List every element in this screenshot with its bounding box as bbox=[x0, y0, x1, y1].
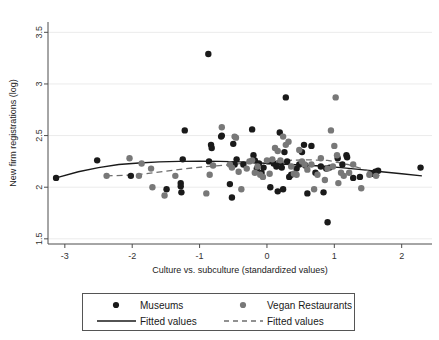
data-point bbox=[279, 164, 285, 170]
y-tick-label: 2 bbox=[34, 185, 44, 190]
data-point bbox=[330, 163, 336, 169]
data-point bbox=[308, 161, 314, 167]
data-point bbox=[178, 189, 184, 195]
x-tick-label: 0 bbox=[264, 251, 269, 261]
legend-label-vegan: Vegan Restaurants bbox=[267, 300, 352, 311]
data-point bbox=[288, 163, 294, 169]
data-point bbox=[219, 132, 225, 138]
data-point bbox=[285, 139, 291, 145]
data-point bbox=[293, 172, 299, 178]
data-point bbox=[304, 166, 310, 172]
x-axis-title: Culture vs. subculture (standardized val… bbox=[152, 265, 328, 275]
data-point bbox=[322, 177, 328, 183]
data-point bbox=[178, 183, 184, 189]
data-point bbox=[373, 173, 379, 179]
x-tick-label: -2 bbox=[128, 251, 136, 261]
y-axis-title: New firm registrations (log) bbox=[8, 79, 18, 187]
data-point bbox=[350, 175, 356, 181]
legend: Museums Vegan Restaurants Fitted values … bbox=[83, 294, 355, 331]
data-point bbox=[94, 157, 100, 163]
data-point bbox=[180, 156, 186, 162]
legend-label-fit-museums: Fitted values bbox=[140, 316, 197, 327]
data-point bbox=[229, 164, 235, 170]
data-point bbox=[227, 181, 233, 187]
data-point bbox=[161, 192, 167, 198]
data-point bbox=[283, 94, 289, 100]
data-point bbox=[249, 157, 255, 163]
scatter-chart: 1.522.533.5 -3-2-1012 New firm registrat… bbox=[0, 0, 439, 340]
data-point bbox=[205, 51, 211, 57]
data-point bbox=[182, 127, 188, 133]
data-point bbox=[358, 185, 364, 191]
data-point bbox=[138, 160, 144, 166]
data-point bbox=[331, 143, 337, 149]
data-point bbox=[209, 145, 215, 151]
data-point bbox=[244, 165, 250, 171]
data-point bbox=[203, 190, 209, 196]
data-point bbox=[280, 133, 286, 139]
data-point bbox=[277, 157, 283, 163]
data-point bbox=[260, 174, 266, 180]
data-point bbox=[335, 180, 341, 186]
data-point bbox=[275, 148, 281, 154]
data-point bbox=[269, 156, 275, 162]
x-tick-label: 1 bbox=[332, 251, 337, 261]
data-point bbox=[230, 141, 236, 147]
data-point bbox=[238, 186, 244, 192]
data-point bbox=[318, 155, 324, 161]
data-point bbox=[281, 149, 287, 155]
data-point bbox=[320, 189, 326, 195]
data-point bbox=[233, 156, 239, 162]
data-point bbox=[136, 173, 142, 179]
data-point bbox=[210, 162, 216, 168]
data-point bbox=[149, 184, 155, 190]
data-point bbox=[126, 155, 132, 161]
data-point bbox=[328, 127, 334, 133]
data-point bbox=[280, 186, 286, 192]
data-point bbox=[233, 134, 239, 140]
y-tick-label: 3.5 bbox=[34, 26, 44, 39]
data-point bbox=[284, 158, 290, 164]
data-point bbox=[128, 173, 134, 179]
x-tick-label: -3 bbox=[61, 251, 69, 261]
data-point bbox=[219, 124, 225, 130]
data-point bbox=[172, 173, 178, 179]
x-tick-label: 2 bbox=[399, 251, 404, 261]
data-point bbox=[206, 172, 212, 178]
data-point bbox=[308, 143, 314, 149]
data-point bbox=[229, 194, 235, 200]
legend-marker-museums-icon bbox=[113, 302, 119, 308]
x-tick-label: -1 bbox=[196, 251, 204, 261]
data-point bbox=[53, 175, 59, 181]
legend-label-museums: Museums bbox=[140, 300, 183, 311]
data-point bbox=[148, 165, 154, 171]
y-tick-label: 2.5 bbox=[34, 129, 44, 142]
data-point bbox=[267, 184, 273, 190]
data-point bbox=[103, 173, 109, 179]
data-point bbox=[264, 157, 270, 163]
data-point bbox=[260, 164, 266, 170]
data-point bbox=[324, 219, 330, 225]
data-point bbox=[235, 169, 241, 175]
legend-marker-vegan-icon bbox=[240, 302, 246, 308]
data-point bbox=[266, 171, 272, 177]
data-point bbox=[254, 163, 260, 169]
legend-label-fit-vegan: Fitted values bbox=[267, 316, 324, 327]
data-point bbox=[249, 126, 255, 132]
data-point bbox=[357, 174, 363, 180]
data-point bbox=[346, 170, 352, 176]
data-point bbox=[304, 190, 310, 196]
data-point bbox=[341, 173, 347, 179]
data-point bbox=[314, 172, 320, 178]
y-tick-label: 1.5 bbox=[34, 233, 44, 246]
data-point bbox=[344, 154, 350, 160]
data-point bbox=[301, 142, 307, 148]
data-point bbox=[296, 147, 302, 153]
data-point bbox=[417, 164, 423, 170]
data-point bbox=[332, 94, 338, 100]
data-point bbox=[366, 172, 372, 178]
data-point bbox=[163, 186, 169, 192]
data-point bbox=[311, 186, 317, 192]
data-point bbox=[339, 161, 345, 167]
data-point bbox=[350, 161, 356, 167]
